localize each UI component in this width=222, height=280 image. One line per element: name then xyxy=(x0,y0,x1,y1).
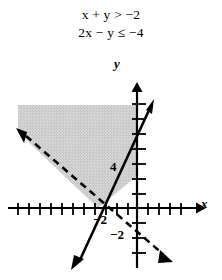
x-axis-label: x xyxy=(201,196,208,212)
x-tick-label-neg2: −2 xyxy=(93,212,107,228)
inequality-graph-figure: x + y > −2 2x − y ≤ −4 xyxy=(0,0,222,280)
y-tick-label-4: 4 xyxy=(110,159,117,175)
x-axis xyxy=(8,203,206,216)
y-axis-label: y xyxy=(114,56,120,72)
shaded-solution-region xyxy=(18,105,137,208)
y-tick-label-neg2: −2 xyxy=(110,227,124,243)
